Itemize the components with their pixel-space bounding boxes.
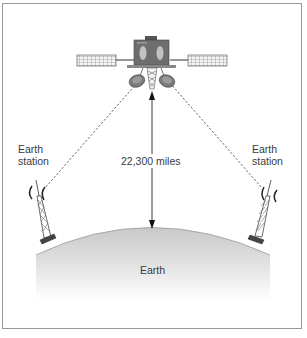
diagram-canvas: [0, 0, 307, 338]
signal-line-right: [170, 83, 262, 188]
earth-station-left-icon: [30, 180, 57, 244]
label-line: station: [18, 155, 49, 167]
label-line: Earth: [252, 143, 283, 155]
label-distance: 22,300 miles: [119, 154, 183, 168]
earth-station-right-icon: [248, 180, 277, 244]
signal-line-left: [45, 83, 137, 188]
label-earth: Earth: [140, 264, 165, 276]
satellite-icon: [77, 36, 227, 89]
label-earth-station-left: Earth station: [18, 143, 49, 167]
label-line: Earth: [18, 143, 49, 155]
label-line: station: [252, 155, 283, 167]
label-earth-station-right: Earth station: [252, 143, 283, 167]
